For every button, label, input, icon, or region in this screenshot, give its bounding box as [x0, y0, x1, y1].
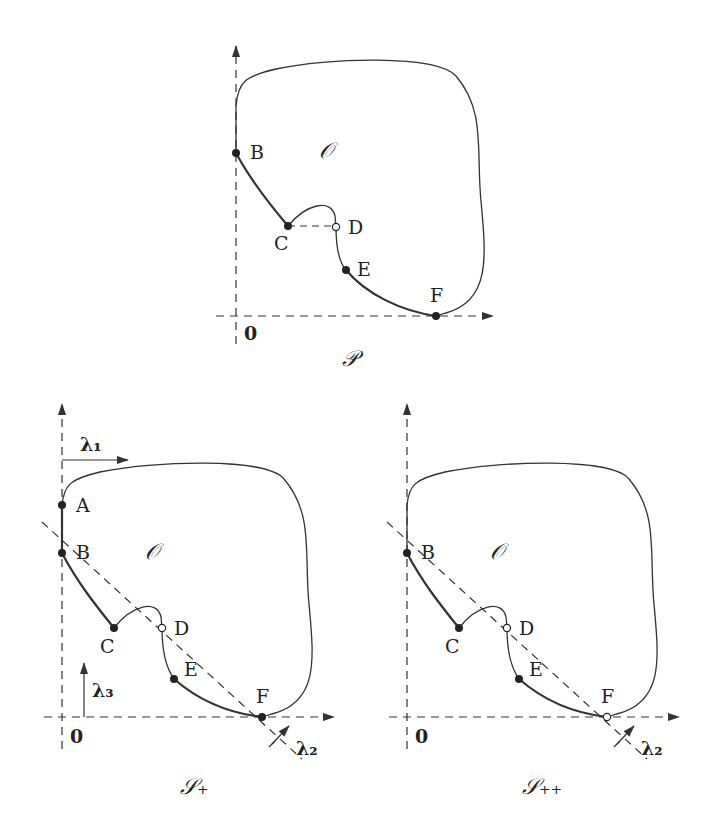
- region-label: 𝒪: [319, 138, 338, 163]
- label-c: C: [100, 635, 115, 657]
- bump-curve: [459, 606, 519, 679]
- panel-caption: 𝒮₊₊: [522, 774, 562, 799]
- point-b: [58, 549, 66, 557]
- point-d: [158, 624, 165, 631]
- point-b: [232, 149, 240, 157]
- point-e: [515, 675, 523, 683]
- label-b: B: [421, 541, 435, 563]
- label-c: C: [274, 232, 289, 254]
- point-d: [503, 624, 510, 631]
- point-e: [342, 266, 350, 274]
- point-f: [603, 713, 610, 720]
- panel-caption: 𝒫: [342, 346, 364, 371]
- label-a: A: [75, 494, 90, 516]
- region-label: 𝒪: [490, 539, 509, 564]
- label-c: C: [445, 635, 460, 657]
- lambda2-vector: [272, 726, 289, 744]
- lower-curve: [336, 227, 346, 270]
- label-f: F: [601, 685, 614, 707]
- point-a: [58, 501, 66, 509]
- point-c: [110, 624, 118, 632]
- region-label: 𝒪: [145, 539, 164, 564]
- panel-caption: 𝒮₊: [180, 774, 209, 799]
- label-e: E: [184, 658, 198, 680]
- label-f: F: [256, 685, 269, 707]
- label-d: D: [519, 617, 534, 639]
- label-b: B: [76, 541, 90, 563]
- label-f: F: [430, 284, 443, 306]
- lambda2-label: λ₂: [296, 737, 318, 759]
- label-d: D: [174, 617, 189, 639]
- bump-curve: [114, 606, 174, 679]
- origin-label: 0: [70, 725, 83, 747]
- point-b: [403, 549, 411, 557]
- origin-label: 0: [244, 322, 257, 344]
- point-d: [332, 223, 339, 230]
- origin-label: 0: [415, 725, 428, 747]
- point-f: [258, 713, 266, 721]
- point-f: [432, 312, 440, 320]
- lambda3-label: λ₃: [92, 679, 114, 701]
- point-c: [455, 624, 463, 632]
- label-e: E: [357, 258, 371, 280]
- panel-s-plus-plus: λ₂ B C D E F 𝒪 0 𝒮₊₊: [387, 404, 679, 799]
- efficient-curve: [236, 153, 288, 226]
- lambda2-vector: [617, 726, 634, 744]
- bump-curve: [288, 205, 336, 227]
- label-e: E: [529, 658, 543, 680]
- label-d: D: [348, 216, 363, 238]
- label-b: B: [250, 141, 264, 163]
- lambda1-label: λ₁: [80, 433, 102, 455]
- panel-p: B C D E F 𝒪 0 𝒫: [216, 46, 493, 371]
- lambda2-label: λ₂: [641, 737, 663, 759]
- point-e: [170, 675, 178, 683]
- panel-s-plus: λ₁ λ₃ λ₂ A B C D E F 𝒪 0 𝒮₊: [42, 404, 334, 799]
- point-c: [284, 222, 292, 230]
